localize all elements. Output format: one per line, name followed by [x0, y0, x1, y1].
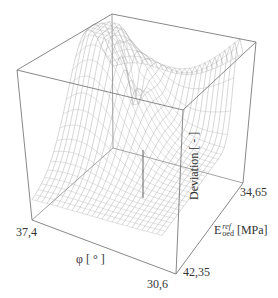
x-tick-37-4: 37,4: [16, 226, 37, 238]
z-axis-title: Deviation [ - ]: [188, 132, 200, 200]
mesh-line: [110, 39, 240, 69]
surface-plot: [0, 0, 278, 298]
mesh-line: [67, 40, 148, 209]
surface-mesh: [32, 22, 243, 236]
mesh-line: [142, 54, 223, 230]
y-tick-42-35: 42,35: [183, 266, 210, 278]
mesh-line: [32, 30, 113, 200]
mesh-line: [107, 69, 188, 221]
y-axis-title: Erefoed [MPa]: [214, 224, 268, 238]
mesh-line: [63, 110, 193, 194]
y-title-sub: oed: [222, 231, 234, 238]
mesh-line: [87, 65, 168, 215]
mesh-line: [48, 170, 178, 214]
mesh-line: [32, 200, 162, 236]
mesh-line: [47, 22, 128, 204]
x-axis-title: φ [ ° ]: [76, 253, 105, 265]
mesh-line: [101, 35, 231, 112]
y-tick-34-65: 34,65: [240, 186, 267, 198]
y-title-base: E: [214, 223, 221, 237]
mesh-line: [97, 68, 178, 218]
x-tick-30-6: 30,6: [147, 278, 168, 290]
y-title-unit: [MPa]: [234, 223, 268, 237]
